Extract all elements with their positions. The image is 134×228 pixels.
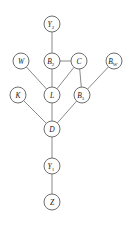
graph-edge-C-L <box>57 67 74 88</box>
edge-layer <box>24 32 109 194</box>
node-label-W: W <box>18 57 25 66</box>
graph-edge-K-D <box>24 101 47 124</box>
graph-node-Y1[interactable]: Y1 <box>44 158 60 174</box>
graph-canvas: Y2WB2CBWKLB3DY1Z <box>0 0 134 228</box>
graph-node-W[interactable]: W <box>13 53 29 69</box>
graph-node-B2[interactable]: B2 <box>44 53 60 69</box>
node-label-K: K <box>14 91 21 100</box>
graph-node-K[interactable]: K <box>10 87 26 103</box>
graph-node-C[interactable]: C <box>71 53 87 69</box>
node-label-L: L <box>49 91 54 100</box>
graph-node-D[interactable]: D <box>44 121 60 137</box>
graph-node-BW[interactable]: BW <box>106 53 122 69</box>
graph-node-L[interactable]: L <box>44 87 60 103</box>
graph-edge-C-B3 <box>80 69 82 87</box>
graph-edge-B3-D <box>57 101 76 123</box>
graph-edge-BW-B3 <box>87 67 108 89</box>
graph-edge-W-L <box>26 67 46 89</box>
graph-diagram: Y2WB2CBWKLB3DY1Z <box>0 0 134 228</box>
graph-node-B3[interactable]: B3 <box>74 87 90 103</box>
graph-node-Y2[interactable]: Y2 <box>44 16 60 32</box>
graph-node-Z[interactable]: Z <box>44 194 60 210</box>
node-label-D: D <box>48 125 55 134</box>
